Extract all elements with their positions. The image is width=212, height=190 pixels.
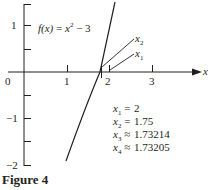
iterate-3-rel: ≈ [124,128,130,140]
y-tick-label-1: 1 [11,20,17,31]
y-ticks [24,5,31,166]
plot-area [0,0,212,190]
x-axis-label: x [203,66,208,77]
iterate-4-sub: 4 [118,148,122,156]
y-tick-label-neg1: −1 [6,113,18,124]
x-tick-label-0: 0 [5,76,11,87]
x-tick-label-3: 3 [149,76,155,87]
function-label-rest: − 3 [73,22,90,34]
iterate-1-value: 2 [134,102,140,114]
function-label-eq: = [53,22,65,34]
function-label: f(x) = x2 − 3 [38,20,91,34]
iterate-3-value: 1.73214 [134,128,170,140]
iterate-2-value: 1.75 [134,115,153,127]
pointer-label-x2-sub: 2 [140,39,144,47]
x-tick-label-1: 1 [64,76,70,87]
pointer-line-x2 [102,39,134,67]
iterate-4-value: 1.73205 [134,141,170,153]
pointer-label-x1-sub: 1 [140,54,144,62]
iterate-4-rel: ≈ [124,141,130,153]
figure-caption: Figure 4 [2,172,48,188]
iterate-2-rel: = [124,115,130,127]
x-axis-arrow-icon [192,69,202,76]
x-tick-label-2: 2 [105,76,111,87]
iterate-row-4: x4 ≈ 1.73205 [113,141,130,158]
pointer-label-x1: x1 [135,48,143,64]
iterate-1-rel: = [124,102,130,114]
y-tick-label-neg2: −2 [6,160,18,171]
function-label-lhs: f(x) [38,22,53,34]
